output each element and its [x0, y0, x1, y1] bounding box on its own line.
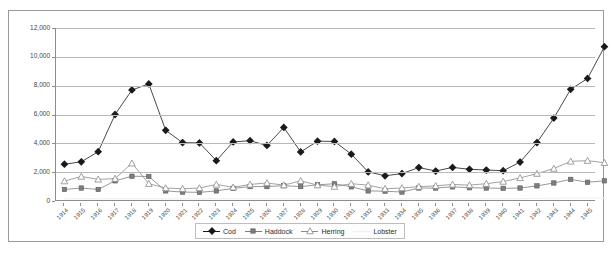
- chart-legend: CodHaddockHerringLobster: [195, 223, 405, 239]
- x-tick-mark: [333, 203, 334, 206]
- legend-item-lobster[interactable]: Lobster: [353, 227, 396, 235]
- x-tick-mark: [283, 203, 284, 206]
- x-tick-mark: [452, 203, 453, 206]
- x-tick-mark: [401, 203, 402, 206]
- x-tick-label: 1920: [153, 207, 171, 225]
- data-point-marker: [307, 228, 314, 234]
- x-tick-mark: [198, 203, 199, 206]
- haddock-marker-icon: [245, 227, 262, 235]
- series-line: [64, 198, 604, 199]
- x-tick-label: 1936: [423, 207, 441, 225]
- data-point-marker: [568, 86, 574, 92]
- y-tick-label: 0: [10, 198, 50, 205]
- data-point-marker: [551, 165, 558, 171]
- x-tick-label: 1917: [102, 207, 120, 225]
- x-tick-mark: [435, 203, 436, 206]
- legend-label: Herring: [321, 228, 344, 235]
- data-point-marker: [264, 180, 271, 186]
- x-tick-label: 1943: [541, 207, 559, 225]
- herring-marker-icon: [301, 227, 318, 235]
- y-tick-label: 2,000: [10, 169, 50, 176]
- legend-item-cod[interactable]: Cod: [203, 227, 236, 235]
- data-point-marker: [96, 187, 100, 191]
- x-tick-mark: [97, 203, 98, 206]
- y-tick-label: 8,000: [10, 82, 50, 89]
- data-point-marker: [298, 184, 302, 188]
- x-tick-label: 1914: [51, 207, 69, 225]
- y-tick-label: 6,000: [10, 111, 50, 118]
- data-point-marker: [382, 173, 388, 179]
- y-tick-label: 10,000: [10, 53, 50, 60]
- y-tick-mark: [52, 143, 55, 144]
- x-tick-mark: [468, 203, 469, 206]
- y-tick-mark: [52, 115, 55, 116]
- series-lobster: [64, 198, 604, 199]
- data-point-marker: [433, 168, 439, 174]
- gridline: [56, 28, 595, 29]
- data-point-marker: [568, 177, 572, 181]
- data-point-marker: [535, 184, 539, 188]
- y-tick-mark: [52, 201, 55, 202]
- x-tick-mark: [266, 203, 267, 206]
- data-point-marker: [129, 160, 136, 166]
- x-tick-mark: [418, 203, 419, 206]
- y-tick-label: 12,000: [10, 25, 50, 32]
- x-tick-label: 1945: [574, 207, 592, 225]
- x-tick-mark: [80, 203, 81, 206]
- series-line: [64, 47, 604, 176]
- x-tick-mark: [587, 203, 588, 206]
- data-point-marker: [518, 186, 522, 190]
- x-tick-label: 1919: [136, 207, 154, 225]
- x-tick-mark: [131, 203, 132, 206]
- gridline: [56, 86, 595, 87]
- x-tick-mark: [114, 203, 115, 206]
- x-tick-mark: [215, 203, 216, 206]
- data-point-marker: [585, 180, 589, 184]
- data-point-marker: [147, 174, 151, 178]
- lobster-marker-icon: [353, 227, 370, 235]
- x-tick-label: 1935: [406, 207, 424, 225]
- x-tick-mark: [553, 203, 554, 206]
- gridline: [56, 57, 595, 58]
- data-point-marker: [78, 173, 85, 179]
- legend-label: Haddock: [265, 228, 293, 235]
- legend-item-herring[interactable]: Herring: [301, 227, 344, 235]
- x-tick-mark: [502, 203, 503, 206]
- legend-label: Lobster: [373, 228, 396, 235]
- x-tick-mark: [165, 203, 166, 206]
- x-tick-mark: [367, 203, 368, 206]
- data-point-marker: [348, 180, 355, 186]
- x-tick-label: 1939: [473, 207, 491, 225]
- data-point-marker: [62, 187, 66, 191]
- x-tick-label: 1941: [507, 207, 525, 225]
- data-point-marker: [449, 164, 455, 170]
- x-tick-mark: [300, 203, 301, 206]
- x-tick-mark: [570, 203, 571, 206]
- legend-item-haddock[interactable]: Haddock: [245, 227, 293, 235]
- data-point-marker: [552, 181, 556, 185]
- data-point-marker: [214, 189, 218, 193]
- gridline: [56, 172, 595, 173]
- x-tick-label: 1915: [68, 207, 86, 225]
- data-point-marker: [95, 149, 101, 155]
- data-point-marker: [501, 186, 505, 190]
- y-tick-label: 4,000: [10, 140, 50, 147]
- x-tick-label: 1938: [456, 207, 474, 225]
- data-point-marker: [251, 229, 255, 233]
- data-point-marker: [551, 115, 557, 121]
- legend-label: Cod: [223, 228, 236, 235]
- gridline: [56, 115, 595, 116]
- plot-area: [55, 28, 595, 201]
- chart-frame: 1914191519161917191819191920192119221923…: [8, 10, 604, 242]
- data-point-marker: [584, 75, 590, 81]
- x-tick-mark: [232, 203, 233, 206]
- data-point-marker: [208, 228, 214, 234]
- y-tick-mark: [52, 86, 55, 87]
- data-point-marker: [602, 179, 606, 183]
- x-tick-label: 1942: [524, 207, 542, 225]
- data-point-marker: [78, 159, 84, 165]
- data-point-marker: [129, 87, 135, 93]
- x-tick-mark: [384, 203, 385, 206]
- x-tick-mark: [485, 203, 486, 206]
- data-point-marker: [298, 149, 304, 155]
